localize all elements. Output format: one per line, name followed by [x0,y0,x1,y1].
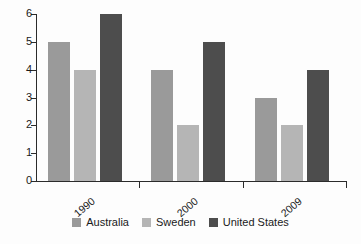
legend-item[interactable]: Sweden [142,216,196,229]
y-axis-tick-label: 1 [26,146,32,159]
y-axis-tick-label: 4 [26,63,32,76]
y-axis-tick-label: 2 [26,118,32,131]
x-axis-line [36,181,347,182]
legend-item[interactable]: United States [209,216,289,229]
legend-swatch-icon [142,218,151,227]
x-axis-tick [346,182,347,188]
legend-swatch-icon [72,218,81,227]
bar [177,125,199,181]
plot-area [36,14,346,181]
bar-chart: 0123456 199020002009 AustraliaSwedenUnit… [0,0,361,244]
x-axis-tick [139,182,140,188]
bar [255,98,277,182]
bar [74,70,96,181]
bar [281,125,303,181]
bar [203,42,225,181]
bar [307,70,329,181]
x-axis-tick [243,182,244,188]
y-axis-tick-label: 5 [26,35,32,48]
y-axis-tick-label: 0 [26,174,32,187]
legend-item[interactable]: Australia [72,216,129,229]
chart-legend: AustraliaSwedenUnited States [0,216,361,229]
bar [48,42,70,181]
bar [100,14,122,181]
bar [151,70,173,181]
legend-label: Sweden [156,216,196,229]
y-axis-tick-label: 3 [26,91,32,104]
legend-swatch-icon [209,218,218,227]
legend-label: Australia [86,216,129,229]
y-axis-tick-label: 6 [26,7,32,20]
legend-label: United States [223,216,289,229]
